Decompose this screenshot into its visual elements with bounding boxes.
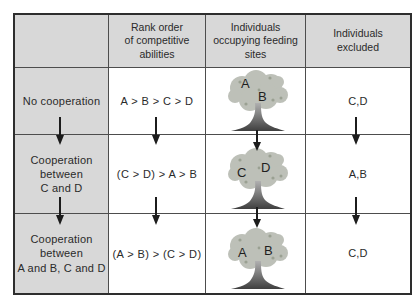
cooperation-table: Rank order of competitive abilities Indi… bbox=[13, 13, 412, 295]
occupant-letter: A bbox=[241, 77, 250, 90]
header-excluded-label: Individuals excluded bbox=[333, 27, 383, 54]
scenario-label: Cooperation between C and D bbox=[30, 153, 92, 196]
rank-cell-row3: (A > B) > (C > D) bbox=[109, 214, 206, 293]
down-arrow-rank-2 bbox=[152, 197, 160, 225]
rank-value: A > B > C > D bbox=[121, 95, 194, 107]
rank-value: (C > D) > A > B bbox=[117, 168, 197, 180]
tree-trunk bbox=[231, 261, 285, 289]
down-arrow-excluded-1 bbox=[352, 117, 360, 145]
header-cell-rank-order: Rank order of competitive abilities bbox=[109, 15, 206, 68]
down-arrow-tree-2 bbox=[253, 207, 261, 228]
scenario-label: No cooperation bbox=[23, 94, 100, 108]
down-arrow-scenario-2 bbox=[56, 197, 64, 225]
header-cell-scenario bbox=[15, 15, 109, 68]
tree-trunk bbox=[231, 181, 285, 209]
header-feeding-sites-label: Individuals occupying feeding sites bbox=[213, 21, 298, 62]
occupant-letter: B bbox=[264, 244, 273, 257]
down-arrow-rank-1 bbox=[152, 117, 160, 145]
down-arrow-excluded-2 bbox=[352, 197, 360, 225]
occupant-letter: B bbox=[258, 90, 267, 103]
down-arrow-tree-1 bbox=[253, 130, 261, 151]
tree-graphic bbox=[226, 228, 290, 290]
excluded-cell-row3: C,D bbox=[306, 214, 410, 293]
down-arrow-scenario-1 bbox=[56, 117, 64, 145]
scenario-cell-coop-ab-cd: Cooperation between A and B, C and D bbox=[15, 214, 109, 293]
scenario-label: Cooperation between A and B, C and D bbox=[17, 232, 105, 275]
header-cell-feeding-sites: Individuals occupying feeding sites bbox=[206, 15, 306, 68]
feeding-tree-row1: A B bbox=[226, 70, 290, 132]
occupant-letter: A bbox=[238, 246, 247, 259]
feeding-tree-row3: A B bbox=[226, 228, 290, 290]
header-rank-order-label: Rank order of competitive abilities bbox=[125, 21, 190, 62]
occupant-letter: C bbox=[237, 166, 246, 179]
occupant-letter: D bbox=[261, 161, 270, 174]
header-cell-excluded: Individuals excluded bbox=[306, 15, 410, 68]
excluded-value: C,D bbox=[348, 94, 368, 108]
figure-canvas: Rank order of competitive abilities Indi… bbox=[0, 0, 418, 304]
tree-trunk bbox=[231, 103, 285, 131]
tree-graphic bbox=[226, 148, 290, 210]
feeding-tree-row2: C D bbox=[226, 148, 290, 210]
rank-value: (A > B) > (C > D) bbox=[112, 248, 201, 260]
excluded-value: C,D bbox=[348, 246, 368, 260]
excluded-value: A,B bbox=[349, 167, 367, 181]
